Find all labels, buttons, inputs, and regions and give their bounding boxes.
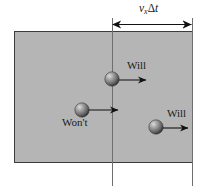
delta-symbol: Δ — [148, 2, 155, 14]
dimension-label: vxΔt — [139, 3, 158, 16]
particle-label-right: Will — [167, 108, 186, 119]
diagram-canvas — [0, 0, 207, 192]
particle-label-top: Will — [127, 60, 146, 71]
particle-label-middle: Won't — [62, 117, 88, 128]
shaded-volume — [15, 32, 193, 163]
particle-top — [105, 72, 119, 86]
physics-flux-diagram: vxΔt Will Won't Will — [0, 0, 207, 192]
particle-right — [149, 120, 163, 134]
time-symbol: t — [155, 2, 158, 14]
